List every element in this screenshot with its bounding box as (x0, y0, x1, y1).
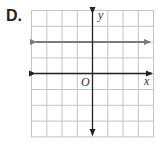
x-axis-label: x (143, 74, 150, 88)
y-axis-label: y (97, 8, 104, 22)
coordinate-graph: y x O (0, 0, 164, 145)
origin-label: O (81, 75, 90, 89)
